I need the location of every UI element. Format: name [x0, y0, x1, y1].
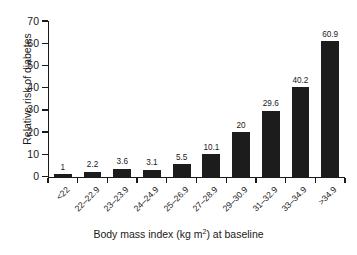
x-axis-tick — [285, 178, 286, 183]
y-axis-line — [48, 21, 49, 178]
y-axis-tick-label: 10 — [15, 149, 39, 160]
y-axis-tick — [42, 154, 48, 155]
x-axis-title: Body mass index (kg m2) at baseline — [0, 228, 357, 240]
bar — [202, 154, 220, 176]
bar-value-label: 40.2 — [280, 77, 320, 85]
y-axis-tick — [42, 65, 48, 66]
y-axis-tick-label: 40 — [15, 82, 39, 93]
y-axis-tick-label: 30 — [15, 104, 39, 115]
y-axis-tick-label: 50 — [15, 60, 39, 71]
y-axis-tick — [42, 131, 48, 132]
x-axis-tick — [344, 178, 345, 183]
y-axis-tick-label: 20 — [15, 127, 39, 138]
bar — [173, 164, 191, 176]
x-axis-title-suffix: ) at baseline — [206, 228, 263, 240]
x-axis-tick — [166, 178, 167, 183]
bar — [143, 170, 161, 177]
y-axis-tick — [42, 20, 48, 21]
bar — [262, 111, 280, 177]
y-axis-tick — [42, 87, 48, 88]
bar-value-label: 10.1 — [191, 144, 231, 152]
x-axis-tick — [47, 178, 48, 183]
x-axis-tick — [315, 178, 316, 183]
y-axis-tick — [42, 109, 48, 110]
bar — [113, 169, 131, 177]
y-axis-tick-label: 60 — [15, 38, 39, 49]
bar — [292, 87, 310, 176]
bar-value-label: 60.9 — [310, 31, 350, 39]
bar-value-label: 5.5 — [162, 154, 202, 162]
x-axis-title-prefix: Body mass index (kg m — [93, 228, 202, 240]
y-axis-tick — [42, 43, 48, 44]
x-axis-tick — [77, 178, 78, 183]
bar — [321, 41, 339, 176]
bar — [232, 132, 250, 176]
bar-chart-figure: Relative risk of diabetes 01020304050607… — [0, 0, 357, 255]
x-axis-tick — [226, 178, 227, 183]
x-axis-tick — [136, 178, 137, 183]
y-axis-tick-label: 70 — [15, 16, 39, 27]
bar-value-label: 29.6 — [251, 100, 291, 108]
x-axis-tick — [196, 178, 197, 183]
bar — [84, 172, 102, 177]
x-axis-tick — [255, 178, 256, 183]
bar-value-label: 20 — [221, 122, 261, 130]
y-axis-tick-label: 0 — [15, 171, 39, 182]
x-axis-tick — [107, 178, 108, 183]
bar — [54, 174, 72, 176]
